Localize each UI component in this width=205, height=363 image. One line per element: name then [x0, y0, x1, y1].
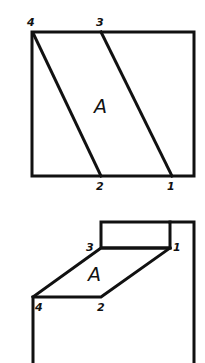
front-view-block [101, 222, 170, 248]
plane-label-front: A [86, 263, 101, 285]
point-label-1-top: 1 [167, 180, 175, 193]
point-label-4-front: 4 [34, 301, 43, 314]
point-label-1-front: 1 [173, 241, 181, 254]
front-view-upper [33, 248, 170, 297]
projection-diagram: 4 3 2 1 A 3 1 2 4 A [0, 0, 205, 363]
point-label-2-front: 2 [97, 301, 105, 314]
point-label-3-front: 3 [86, 241, 94, 254]
plane-label-top: A [92, 95, 107, 117]
edge-4-2 [33, 33, 101, 176]
point-label-3-top: 3 [96, 16, 104, 29]
point-label-2-top: 2 [96, 180, 104, 193]
point-label-4-top: 4 [26, 16, 35, 29]
edge-3-1 [101, 32, 172, 176]
